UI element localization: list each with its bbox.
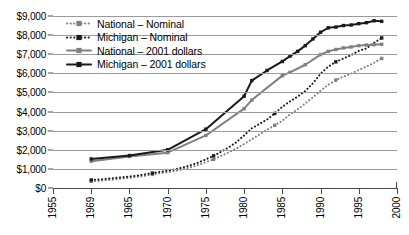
series-0 — [90, 57, 384, 183]
data-point-marker — [319, 31, 322, 34]
data-point-marker — [204, 134, 207, 137]
data-point-marker — [242, 95, 245, 98]
data-point-marker — [281, 60, 284, 63]
y-tick-label: $3,000 — [17, 125, 46, 136]
gridline-horizontal — [53, 169, 397, 170]
data-point-marker — [250, 79, 253, 82]
y-tick-label: $6,000 — [17, 68, 46, 79]
data-point-marker — [304, 63, 307, 66]
legend-item-3[interactable]: Michigan – 2001 dollars — [66, 58, 226, 72]
data-point-marker — [342, 24, 345, 27]
data-point-marker — [380, 57, 383, 60]
data-point-marker — [380, 36, 383, 39]
y-tick-label: $4,000 — [17, 106, 46, 117]
gridline-horizontal — [53, 92, 397, 93]
x-tick-mark — [244, 188, 245, 194]
legend-swatch-icon — [66, 18, 92, 29]
gridline-horizontal — [53, 150, 397, 151]
x-tick-mark — [397, 188, 398, 194]
legend-label: National – 2001 dollars — [97, 45, 202, 57]
x-tick-label: 1955 — [47, 197, 58, 218]
legend-swatch-icon — [66, 32, 92, 43]
x-tick-label: 1965 — [123, 197, 134, 218]
y-tick-label: $8,000 — [17, 30, 46, 41]
y-tick-label: $5,000 — [17, 87, 46, 98]
data-point-marker — [212, 158, 215, 161]
data-point-marker — [242, 107, 245, 110]
data-point-marker — [304, 44, 307, 47]
x-tick-mark — [359, 188, 360, 194]
data-point-marker — [357, 22, 360, 25]
x-tick-mark — [321, 188, 322, 194]
data-point-marker — [281, 74, 284, 77]
x-tick-mark — [206, 188, 207, 194]
y-tick-label: $1,000 — [17, 163, 46, 174]
legend-item-1[interactable]: Michigan – Nominal — [66, 31, 226, 45]
line-chart: $0$1,000$2,000$3,000$4,000$5,000$6,000$7… — [0, 0, 409, 235]
gridline-horizontal — [53, 131, 397, 132]
data-point-marker — [342, 46, 345, 49]
x-tick-label: 1980 — [238, 197, 249, 218]
data-point-marker — [90, 157, 93, 160]
y-tick-label: $2,000 — [17, 144, 46, 155]
data-point-marker — [296, 50, 299, 53]
data-point-marker — [327, 50, 330, 53]
legend-label: Michigan – 2001 dollars — [97, 58, 206, 70]
x-tick-mark — [91, 188, 92, 194]
data-point-marker — [380, 20, 383, 23]
legend-swatch-icon — [66, 45, 92, 56]
chart-legend: National – NominalMichigan – NominalNati… — [66, 17, 226, 71]
data-point-marker — [334, 60, 337, 63]
data-point-marker — [250, 98, 253, 101]
x-tick-mark — [168, 188, 169, 194]
x-tick-mark — [129, 188, 130, 194]
gridline-horizontal — [53, 73, 397, 74]
data-point-marker — [327, 26, 330, 29]
data-point-marker — [349, 23, 352, 26]
data-point-marker — [365, 43, 368, 46]
data-point-marker — [273, 124, 276, 127]
x-tick-label: 1975 — [200, 197, 211, 218]
x-tick-mark — [53, 188, 54, 194]
x-tick-label: 1970 — [162, 197, 173, 218]
data-point-marker — [311, 37, 314, 40]
legend-item-2[interactable]: National – 2001 dollars — [66, 44, 226, 58]
data-point-marker — [365, 21, 368, 24]
data-point-marker — [372, 43, 375, 46]
data-point-marker — [151, 171, 154, 174]
data-point-marker — [334, 48, 337, 51]
legend-item-0[interactable]: National – Nominal — [66, 17, 226, 31]
y-tick-label: $9,000 — [17, 11, 46, 22]
gridline-horizontal — [53, 112, 397, 113]
data-point-marker — [334, 25, 337, 28]
x-tick-mark — [282, 188, 283, 194]
data-point-marker — [212, 154, 215, 157]
legend-label: National – Nominal — [97, 18, 184, 30]
x-tick-label: 1969 — [85, 197, 96, 218]
data-point-marker — [265, 69, 268, 72]
legend-swatch-icon — [66, 59, 92, 70]
y-axis: $0$1,000$2,000$3,000$4,000$5,000$6,000$7… — [0, 0, 53, 200]
x-tick-label: 2000 — [391, 197, 402, 218]
data-point-marker — [357, 44, 360, 47]
data-point-marker — [90, 178, 93, 181]
x-tick-label: 1990 — [315, 197, 326, 218]
x-axis: 1955196919651970197519801985199019952000 — [0, 188, 409, 235]
y-tick-label: $7,000 — [17, 49, 46, 60]
data-point-marker — [349, 45, 352, 48]
x-tick-label: 1995 — [353, 197, 364, 218]
data-point-marker — [380, 43, 383, 46]
legend-label: Michigan – Nominal — [97, 31, 187, 43]
data-point-marker — [334, 78, 337, 81]
data-point-marker — [372, 19, 375, 22]
series-line — [91, 58, 381, 181]
x-tick-label: 1985 — [276, 197, 287, 218]
data-point-marker — [128, 154, 131, 157]
